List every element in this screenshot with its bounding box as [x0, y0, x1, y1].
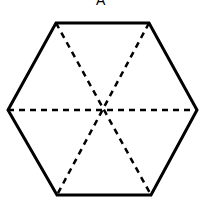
hexagon-outline: [8, 23, 197, 195]
diagonal-top-right-to-bottom-left: [57, 23, 149, 195]
hexagon-diagram: [0, 0, 204, 200]
